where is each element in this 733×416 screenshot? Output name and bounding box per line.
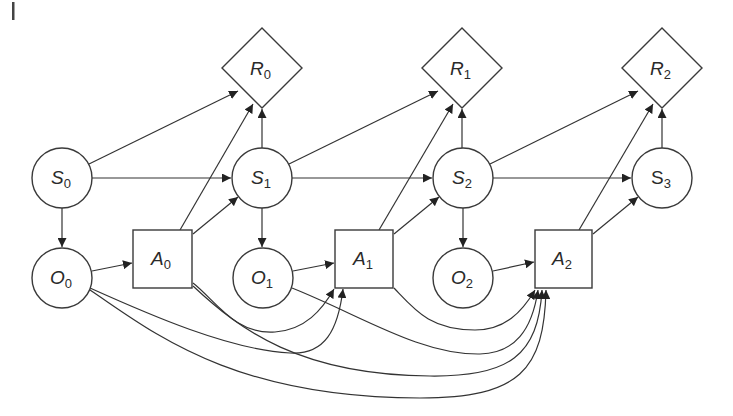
edge-s0-r0 [89,91,238,164]
node-o0: O0 [32,248,92,308]
node-r2: R2 [622,28,702,108]
node-s1: S1 [232,148,292,208]
node-s2: S2 [433,148,493,208]
node-a1: A1 [335,230,393,288]
node-o1: O1 [233,248,293,308]
edge-s2-r2 [490,91,638,164]
edge-o1-a1 [293,263,334,271]
edge-a0-s1 [193,197,238,234]
edge-o0-a0 [92,263,132,271]
node-s0: S0 [32,148,92,208]
edge-o0-a2 [90,290,546,398]
edge-a1-s2 [394,197,439,234]
node-s3: S3 [632,148,692,208]
node-r0: R0 [222,28,302,108]
node-r1: R1 [422,28,502,108]
edge-s1-r1 [289,91,438,164]
edge-o0-a1 [90,288,343,353]
node-o2: O2 [433,248,493,308]
corner-mark [12,2,15,20]
decision-network-diagram: R0 R1 R2 S0 S1 S2 S3 O0 O1 O2 A0 [0,0,733,416]
node-a2: A2 [535,230,592,288]
node-a0: A0 [133,230,192,288]
edge-o2-a2 [493,262,534,271]
edge-a2-s3 [593,197,638,234]
